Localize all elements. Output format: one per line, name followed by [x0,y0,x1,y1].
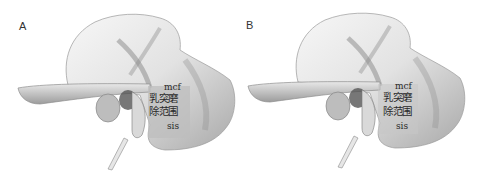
label-region-line1: 乳突磨 [383,92,412,103]
panel-a: A mcf 乳突磨 除范围 sis [0,0,240,187]
label-region-line2: 除范围 [383,106,412,117]
label-sis: sis [396,122,408,131]
label-mcf: mcf [395,82,412,91]
label-sis: sis [167,122,179,131]
label-region-line1: 乳突磨 [149,93,178,104]
label-region-line2: 除范围 [149,106,178,117]
styloid-process [108,138,128,170]
temporal-bone-illustration [240,0,481,187]
panel-b: B mcf 乳突磨 除范围 sis [240,0,480,187]
label-mcf: mcf [164,83,181,92]
styloid-process [338,136,358,168]
temporal-bone-illustration [0,0,240,187]
